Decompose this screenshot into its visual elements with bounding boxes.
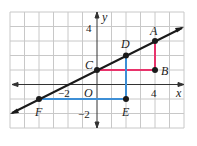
y-axis-label: y — [101, 10, 108, 24]
point-C — [94, 67, 100, 73]
label-A: A — [149, 24, 158, 38]
point-E — [123, 96, 129, 102]
tick-y-neg2: −2 — [78, 108, 90, 120]
tick-y-4: 4 — [86, 22, 92, 34]
label-D: D — [120, 37, 130, 51]
point-A — [152, 38, 158, 44]
point-F — [36, 96, 42, 102]
label-F: F — [34, 105, 43, 119]
x-axis-label: x — [175, 86, 182, 100]
y-axis-arrow-down-icon — [95, 122, 99, 128]
label-B: B — [161, 64, 169, 78]
label-C: C — [85, 58, 94, 72]
origin-label: O — [84, 86, 93, 100]
y-axis-arrow-up-icon — [95, 12, 99, 18]
tick-x-4: 4 — [151, 87, 157, 99]
point-B — [152, 67, 158, 73]
tick-x-neg2: −2 — [58, 87, 70, 99]
label-E: E — [121, 105, 130, 119]
x-axis-arrow-left-icon — [12, 83, 18, 87]
point-D — [123, 53, 129, 59]
coordinate-graph: A B C D E F y x O −2 4 4 −2 — [0, 0, 197, 146]
